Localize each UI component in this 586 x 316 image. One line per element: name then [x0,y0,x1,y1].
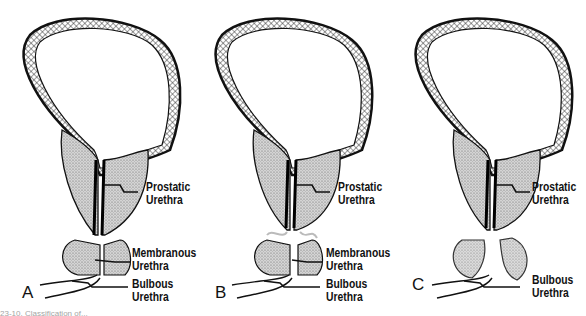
label-membranous-urethra: Membranous Urethra [326,247,390,273]
label-prostatic-urethra: Prostatic Urethra [532,181,576,207]
bladder-lumen [228,28,362,168]
label-bulbous-urethra: Bulbous Urethra [132,278,173,304]
bladder-lumen [36,28,170,168]
panel-c [416,19,573,298]
label-membranous-urethra: Membranous Urethra [132,247,196,273]
prostate-right [294,150,340,230]
bladder-lumen [428,28,562,168]
label-bulbous-urethra: Bulbous Urethra [532,274,573,300]
leader-bulbous [464,281,520,287]
panel-letter-a: A [22,283,33,303]
figure-caption-fragment: 23-10. Classification of... [0,309,88,316]
membranous-sphincter [63,240,131,275]
panel-letter-b: B [215,283,226,303]
panel-letter-c: C [412,275,424,295]
label-prostatic-urethra: Prostatic Urethra [338,181,382,207]
urethral-injury-diagram [0,0,586,316]
extravasation [267,232,317,238]
label-prostatic-urethra: Prostatic Urethra [146,181,190,207]
label-bulbous-urethra: Bulbous Urethra [326,278,367,304]
disrupted-diaphragm [453,238,527,280]
membranous-sphincter [255,240,323,275]
leader-bulbous [264,281,320,287]
leader-bulbous [72,281,128,287]
